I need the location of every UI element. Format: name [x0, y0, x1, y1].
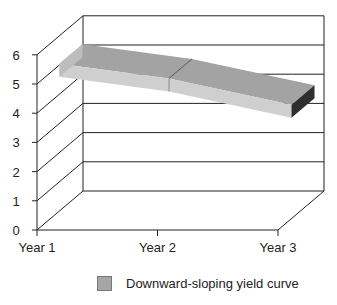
- side-gridline: [37, 16, 83, 55]
- side-gridline: [37, 162, 83, 201]
- yield-curve-ribbon: [60, 44, 315, 117]
- side-gridline: [37, 74, 83, 113]
- side-gridline: [37, 133, 83, 172]
- y-tick-label: 0: [12, 223, 19, 238]
- legend-swatch: [97, 276, 112, 291]
- y-tick-label: 3: [12, 135, 19, 150]
- yield-curve-chart: 0123456Year 1Year 2Year 3: [0, 0, 337, 270]
- side-gridline: [37, 191, 83, 230]
- x-tick-label: Year 3: [259, 240, 296, 255]
- side-gridline: [37, 103, 83, 142]
- y-tick-label: 2: [12, 165, 19, 180]
- floor-edge: [278, 191, 324, 230]
- x-tick-label: Year 2: [139, 240, 176, 255]
- y-tick-label: 6: [12, 48, 19, 63]
- legend-label: Downward-sloping yield curve: [126, 276, 299, 291]
- legend: Downward-sloping yield curve: [97, 276, 299, 291]
- y-tick-label: 1: [12, 194, 19, 209]
- y-tick-label: 5: [12, 77, 19, 92]
- y-tick-label: 4: [12, 106, 19, 121]
- x-tick-label: Year 1: [18, 240, 55, 255]
